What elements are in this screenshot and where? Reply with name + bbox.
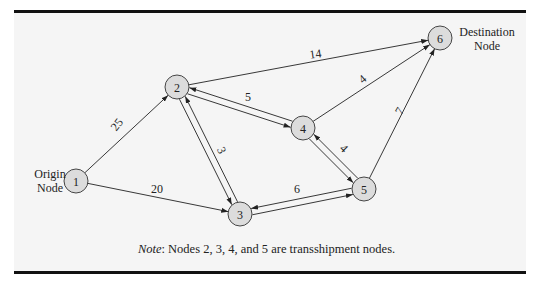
figure-note: Note: Nodes 2, 3, 4, and 5 are transship…: [0, 242, 533, 257]
node-1: 1: [64, 169, 88, 193]
edge-1-2: [85, 95, 168, 173]
edge-cost-4-5: 4: [337, 141, 351, 155]
network-diagram: 252014534467 123456 Origin Node Destinat…: [0, 0, 533, 281]
note-prefix: Note: [138, 242, 162, 256]
node-6: 6: [428, 26, 452, 50]
node-5: 5: [352, 177, 376, 201]
edge-5-4: [314, 134, 358, 178]
edge-cost-1-3: 20: [151, 182, 163, 196]
note-text: : Nodes 2, 3, 4, and 5 are transshipment…: [161, 242, 395, 256]
edge-2-6: [189, 40, 428, 85]
destination-label-line1: Destination: [459, 25, 514, 39]
edge-3-5: [252, 195, 352, 215]
edge-cost-4-6: 4: [356, 72, 370, 87]
node-label: 5: [361, 183, 367, 197]
edge-cost-1-2: 25: [108, 115, 126, 133]
node-3: 3: [228, 202, 252, 226]
edge-4-6: [313, 45, 430, 122]
edge-2-4: [187, 94, 290, 128]
edge-cost-2-4: 5: [245, 90, 251, 104]
node-label: 2: [174, 81, 180, 95]
node-4: 4: [291, 116, 315, 140]
origin-label-line1: Origin: [34, 167, 65, 181]
edge-cost-3-5: 6: [294, 182, 300, 196]
edge-4-2: [189, 88, 292, 122]
node-2: 2: [165, 75, 189, 99]
network-figure: 252014534467 123456 Origin Node Destinat…: [0, 0, 533, 281]
origin-label-line2: Node: [37, 181, 63, 195]
destination-label-line2: Node: [474, 39, 500, 53]
edge-cost-2-3: 3: [214, 145, 229, 156]
cost-labels-layer: 252014534467: [108, 46, 407, 196]
node-label: 4: [300, 122, 306, 136]
edge-cost-2-6: 14: [309, 46, 323, 62]
node-label: 6: [437, 32, 443, 46]
edge-cost-5-6: 7: [392, 105, 407, 117]
node-label: 1: [73, 175, 79, 189]
edge-5-3: [251, 188, 351, 208]
node-label: 3: [237, 208, 243, 222]
edges-layer: [85, 40, 435, 215]
